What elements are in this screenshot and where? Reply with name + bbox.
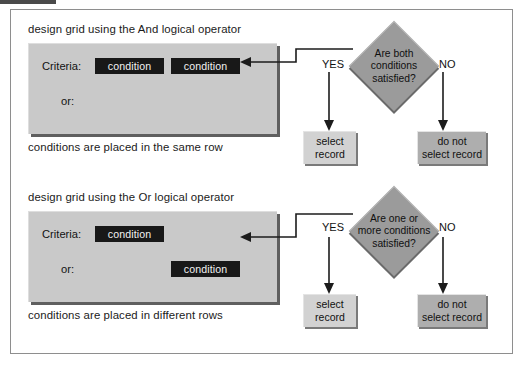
or-decision-text: Are one or more conditions satisfied? xyxy=(340,213,448,250)
section-and-operator: design grid using the And logical operat… xyxy=(0,0,524,180)
and-no-label: NO xyxy=(439,58,456,70)
or-decision-line-2: more conditions xyxy=(340,225,448,237)
and-decision-text: Are both conditions satisfied? xyxy=(348,48,440,85)
and-yes-arrowhead xyxy=(324,120,334,131)
or-no-result-line-1: do not xyxy=(422,298,482,311)
and-no-result-box: do not select record xyxy=(417,131,486,164)
or-no-label: NO xyxy=(439,221,456,233)
and-decision-line-2: conditions xyxy=(348,60,440,72)
or-no-result-line-2: select record xyxy=(422,311,482,324)
and-decision-line-3: satisfied? xyxy=(348,73,440,85)
and-decision-line-1: Are both xyxy=(348,48,440,60)
and-yes-label: YES xyxy=(322,58,344,70)
diagram-page: design grid using the And logical operat… xyxy=(0,0,524,369)
and-yes-result-line-1: select xyxy=(315,135,345,148)
or-yes-result-line-1: select xyxy=(315,298,345,311)
and-yes-result-box: select record xyxy=(303,131,356,164)
or-flow-connectors xyxy=(0,175,524,369)
or-no-arrowhead xyxy=(438,283,448,294)
or-decision-line-1: Are one or xyxy=(340,213,448,225)
or-yes-arrowhead xyxy=(324,283,334,294)
and-feedback-arrowhead xyxy=(240,57,251,67)
and-no-arrowhead xyxy=(438,120,448,131)
or-yes-result-box: select record xyxy=(303,294,356,327)
and-yes-result-line-2: record xyxy=(315,148,345,161)
or-decision-line-3: satisfied? xyxy=(340,238,448,250)
or-yes-label: YES xyxy=(322,221,344,233)
or-yes-result-line-2: record xyxy=(315,311,345,324)
or-no-result-box: do not select record xyxy=(417,294,486,327)
or-feedback-arrowhead xyxy=(240,232,251,242)
and-no-result-line-2: select record xyxy=(422,148,482,161)
section-or-operator: design grid using the Or logical operato… xyxy=(0,175,524,369)
and-no-result-line-1: do not xyxy=(422,135,482,148)
